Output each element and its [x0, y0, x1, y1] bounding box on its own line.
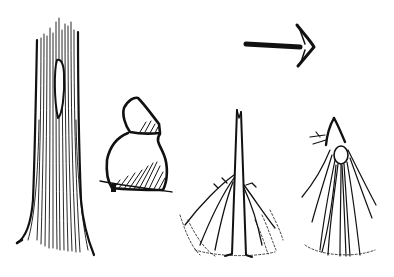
illustration-canvas: Woodcut-style line drawing of trail mark… [0, 0, 394, 277]
tie-knot [334, 146, 348, 164]
grass-tuft-tied-figure [302, 118, 376, 256]
blazed-tree-figure [17, 18, 94, 255]
direction-arrow-figure [246, 25, 314, 66]
grass-tuft-split-figure [180, 110, 283, 257]
stacked-stones-figure [100, 98, 172, 192]
